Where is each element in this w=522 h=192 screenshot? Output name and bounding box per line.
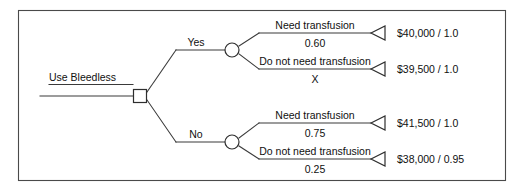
root-label: Use Bleedless — [49, 71, 116, 83]
payoff-label-no-notneed: $38,000 / 0.95 — [397, 153, 464, 165]
branch-line-no — [147, 100, 176, 142]
probability-label-yes-need: 0.60 — [305, 37, 326, 49]
payoff-label-yes-notneed: $39,500 / 1.0 — [397, 63, 458, 75]
terminal-node-yes-need[interactable] — [371, 26, 385, 40]
outcome-line-yes-need-diag — [239, 33, 259, 46]
branch-line-yes — [147, 50, 176, 92]
outcome-line-no-need-diag — [239, 123, 259, 138]
outcome-label-yes-notneed: Do not need transfusion — [259, 55, 371, 67]
outcome-line-yes-notneed-diag — [239, 54, 259, 69]
terminal-node-no-need[interactable] — [371, 116, 385, 130]
payoff-label-no-need: $41,500 / 1.0 — [397, 117, 458, 129]
outcome-label-no-need: Need transfusion — [275, 109, 355, 121]
decision-node-square[interactable] — [134, 90, 147, 103]
outcome-label-yes-need: Need transfusion — [275, 19, 355, 31]
terminal-node-no-notneed[interactable] — [371, 152, 385, 166]
outcome-label-no-notneed: Do not need transfusion — [259, 145, 371, 157]
decision-tree-figure: Use Bleedless Yes No Need transfusion 0.… — [0, 0, 522, 192]
payoff-label-yes-need: $40,000 / 1.0 — [397, 27, 458, 39]
outcome-line-no-notneed-diag — [239, 146, 259, 159]
decision-tree-canvas: Use Bleedless Yes No Need transfusion 0.… — [0, 0, 522, 192]
terminal-node-yes-notneed[interactable] — [371, 62, 385, 76]
probability-label-yes-notneed: X — [311, 73, 318, 85]
probability-label-no-notneed: 0.25 — [305, 163, 326, 175]
chance-node-no[interactable] — [225, 135, 239, 149]
branch-label-no: No — [189, 128, 203, 140]
chance-node-yes[interactable] — [225, 43, 239, 57]
probability-label-no-need: 0.75 — [305, 127, 326, 139]
branch-label-yes: Yes — [187, 36, 204, 48]
